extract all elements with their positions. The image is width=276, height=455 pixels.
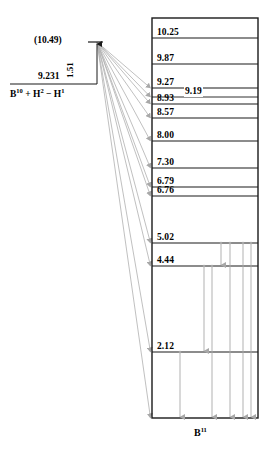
feed-line-4 <box>97 42 151 141</box>
decay-origin-dot-6 <box>179 351 182 354</box>
decay-arrows-group <box>179 242 253 417</box>
upper-level-label: (10.49) <box>34 36 62 46</box>
level-energy-label-7.30: 7.30 <box>157 158 174 168</box>
decay-origin-dot-3 <box>250 242 253 245</box>
gap-energy-label: 1.51 <box>66 62 75 78</box>
separation-energy-label: 9.231 <box>38 72 59 82</box>
energy-level-diagram: 10.259.879.279.198.938.578.007.306.796.7… <box>0 0 276 455</box>
diagram-canvas <box>0 0 276 455</box>
reaction-minus-h1: − H <box>44 89 62 99</box>
level-energy-label-10.25: 10.25 <box>157 28 179 38</box>
decay-origin-dot-2 <box>242 242 245 245</box>
feed-line-8 <box>97 42 151 243</box>
decay-origin-dot-5 <box>211 265 214 268</box>
level-energy-label-9.87: 9.87 <box>157 54 174 64</box>
decay-origin-dot-1 <box>229 242 232 245</box>
level-energy-label-6.76: 6.76 <box>157 186 174 196</box>
feeding-lines-group <box>97 42 151 418</box>
feed-line-3 <box>97 42 151 118</box>
level-energy-label-2.12: 2.12 <box>157 342 174 352</box>
feed-line-11 <box>97 42 151 418</box>
nucleus-label: B11 <box>194 428 207 438</box>
nucleus-symbol: B <box>194 427 201 438</box>
level-energy-label-8.93: 8.93 <box>157 94 174 104</box>
nucleus-mass-number: 11 <box>201 426 207 433</box>
level-energy-label-5.02: 5.02 <box>157 233 174 243</box>
level-energy-label-8.57: 8.57 <box>157 108 174 118</box>
level-energy-label-4.44: 4.44 <box>157 256 174 266</box>
feed-line-5 <box>97 42 151 168</box>
feed-line-6 <box>97 42 151 187</box>
decay-origin-dot-0 <box>220 242 223 245</box>
reaction-plus-h2: + H <box>23 89 41 99</box>
level-energy-label-9.19: 9.19 <box>184 87 203 97</box>
reaction-h1-sup: 1 <box>61 87 64 94</box>
reaction-label: B10 + H2 − H1 <box>10 90 64 100</box>
level-energy-label-9.27: 9.27 <box>157 78 174 88</box>
decay-origin-dot-4 <box>203 265 206 268</box>
level-energy-label-8.00: 8.00 <box>157 131 174 141</box>
